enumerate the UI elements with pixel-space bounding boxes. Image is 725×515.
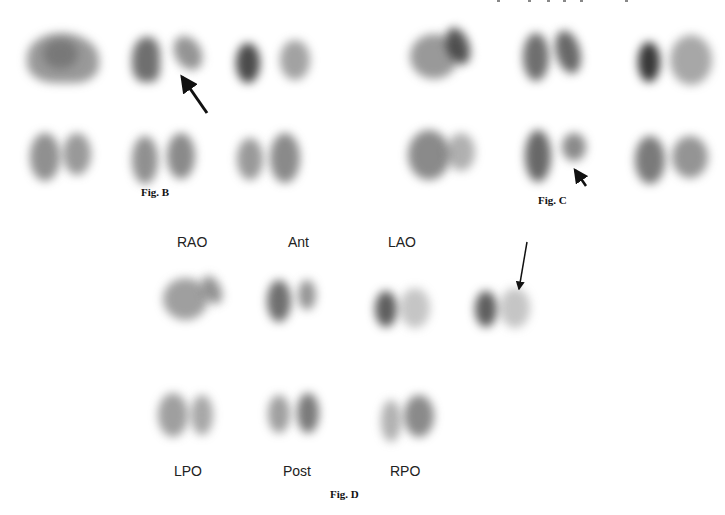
fig-d-scan-post (265, 390, 330, 448)
fig-d-scan-lao-2 (470, 283, 540, 338)
fig-c-caption: Fig. C (538, 194, 567, 206)
fig-b-caption: Fig. B (141, 186, 169, 198)
fig-b-scan-6 (232, 128, 307, 190)
fig-c-scan-3 (630, 30, 725, 95)
view-label-post: Post (283, 463, 311, 479)
fig-c-scan-5 (522, 125, 602, 190)
fig-b-scan-2 (120, 25, 220, 95)
fig-d-scan-rpo (378, 392, 446, 452)
fig-b-scan-3 (228, 25, 323, 95)
fig-c-scan-6 (630, 128, 725, 190)
fig-d-scan-lpo (155, 390, 225, 450)
fig-d-caption: Fig. D (330, 488, 359, 500)
view-label-rpo: RPO (390, 463, 420, 479)
fig-c-scan-4 (405, 125, 490, 190)
view-label-ant: Ant (288, 234, 309, 250)
fig-c-scan-1 (405, 22, 495, 87)
fig-d-scan-ant (262, 275, 332, 335)
view-label-lpo: LPO (174, 463, 202, 479)
fig-d-scan-lao (370, 283, 440, 338)
view-label-lao: LAO (388, 234, 416, 250)
cutoff-text-remnant (450, 0, 719, 3)
fig-c-scan-2 (518, 25, 603, 90)
fig-b-scan-4 (25, 128, 100, 188)
view-label-rao: RAO (177, 234, 207, 250)
fig-b-scan-1 (15, 25, 115, 95)
fig-b-scan-5 (127, 128, 202, 190)
fig-d-scan-rao (158, 270, 238, 335)
